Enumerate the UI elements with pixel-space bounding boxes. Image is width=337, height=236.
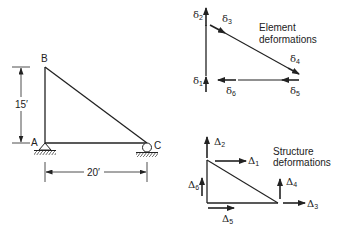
delta4-label: δ4 <box>290 53 300 65</box>
member-bc <box>45 67 147 143</box>
joint-label-b: B <box>41 53 48 64</box>
structure-deformations-diagram: Δ2 Δ1 Δ6 Δ5 Δ4 Δ3 Structure deformations <box>188 136 331 225</box>
Delta6-label: Δ6 <box>188 179 199 191</box>
Delta1-label: Δ1 <box>248 155 259 167</box>
delta4-arrow-icon <box>288 68 299 74</box>
Delta2-label: Δ2 <box>214 136 225 148</box>
delta1-label: δ1 <box>193 75 203 87</box>
delta3-label: δ3 <box>222 13 232 25</box>
width-dimension: 20′ <box>45 162 147 182</box>
delta3-arrow-icon <box>210 25 225 33</box>
width-dimension-label: 20′ <box>87 167 100 178</box>
structure-deformations-caption-line2: deformations <box>273 157 331 168</box>
delta5-label: δ5 <box>290 85 300 97</box>
Delta4-label: Δ4 <box>286 176 297 188</box>
frame-structure: B A C 15′ 20′ <box>12 53 161 182</box>
truss-diagram: B A C 15′ 20′ <box>0 0 337 236</box>
joint-label-c: C <box>154 140 161 151</box>
element-deformations-diagram: δ2 δ3 δ4 δ1 δ6 δ5 Element deformations <box>193 8 317 97</box>
delta2-label: δ2 <box>193 9 203 21</box>
Delta3-label: Δ3 <box>307 198 318 210</box>
element-deformations-caption-line2: deformations <box>259 34 317 45</box>
height-dimension-label: 15′ <box>15 99 28 110</box>
Delta5-label: Δ5 <box>222 213 233 225</box>
height-dimension: 15′ <box>12 67 30 143</box>
joint-label-a: A <box>31 137 38 148</box>
delta6-label: δ6 <box>226 85 236 97</box>
element-deformations-caption-line1: Element <box>259 22 296 33</box>
structure-deformations-caption-line1: Structure <box>273 146 314 157</box>
